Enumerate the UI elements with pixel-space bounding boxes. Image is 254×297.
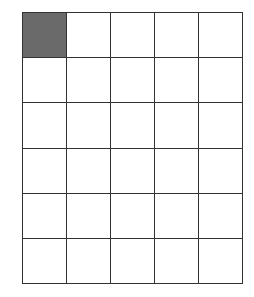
grid-cell [23, 149, 67, 194]
grid-cell [111, 239, 155, 284]
grid-cell [155, 13, 199, 58]
grid-cell [155, 149, 199, 194]
grid-cell [67, 194, 111, 239]
grid-cell [155, 239, 199, 284]
grid-cell [23, 58, 67, 103]
grid-cell [111, 149, 155, 194]
grid [22, 12, 243, 284]
grid-cell [199, 194, 243, 239]
grid-cell [67, 103, 111, 148]
grid-cell [199, 149, 243, 194]
grid-cell [155, 58, 199, 103]
grid-cell [155, 194, 199, 239]
grid-cell [199, 103, 243, 148]
grid-cell [199, 239, 243, 284]
grid-cell [155, 103, 199, 148]
grid-cell [199, 13, 243, 58]
grid-cell [67, 58, 111, 103]
grid-cell [111, 194, 155, 239]
grid-cell [111, 103, 155, 148]
grid-cell-filled [23, 13, 67, 58]
grid-cell [111, 58, 155, 103]
grid-cell [199, 58, 243, 103]
grid-cell [23, 239, 67, 284]
grid-cell [111, 13, 155, 58]
grid-cell [67, 13, 111, 58]
grid-cell [67, 239, 111, 284]
grid-cell [23, 103, 67, 148]
grid-cell [67, 149, 111, 194]
grid-cell [23, 194, 67, 239]
